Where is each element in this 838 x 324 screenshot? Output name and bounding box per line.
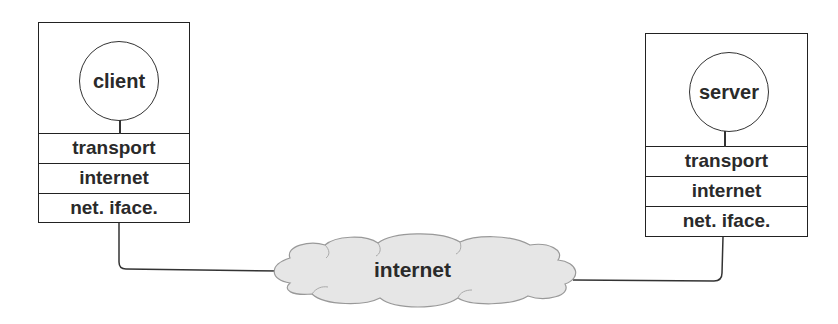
- server-layer-transport: transport: [646, 146, 807, 176]
- server-application-area: server: [646, 34, 807, 146]
- client-layer-internet: internet: [39, 163, 189, 193]
- client-application-area: client: [39, 23, 189, 133]
- server-application-circle: server: [689, 52, 769, 132]
- client-layer-net-iface: net. iface.: [39, 193, 189, 223]
- server-host: server transport internet net. iface.: [645, 33, 808, 237]
- internet-cloud-label: internet: [374, 258, 451, 282]
- client-stem: [119, 120, 121, 134]
- server-layer-net-iface: net. iface.: [646, 206, 807, 236]
- client-application-circle: client: [79, 41, 159, 121]
- server-layer-internet: internet: [646, 176, 807, 206]
- client-link: [119, 222, 280, 271]
- server-label: server: [699, 81, 759, 104]
- client-host: client transport internet net. iface.: [38, 22, 190, 223]
- server-link: [573, 237, 723, 281]
- server-stem: [724, 131, 726, 147]
- client-label: client: [93, 70, 145, 93]
- client-layer-transport: transport: [39, 133, 189, 163]
